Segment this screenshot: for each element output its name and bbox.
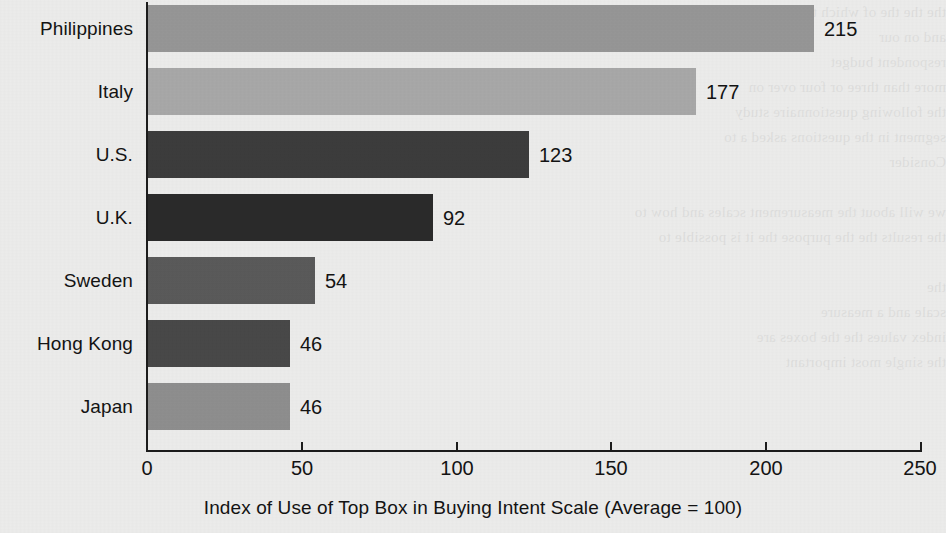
x-axis-tick-200	[765, 442, 767, 452]
bar-italy[interactable]	[148, 68, 696, 115]
bar-uk[interactable]	[148, 194, 433, 241]
category-label-sweden: Sweden	[64, 271, 133, 290]
x-axis-title: Index of Use of Top Box in Buying Intent…	[0, 497, 946, 519]
x-axis-tick-label-100: 100	[440, 458, 473, 478]
bar-japan[interactable]	[148, 383, 290, 430]
x-axis-tick-label-150: 150	[594, 458, 627, 478]
x-axis-line	[146, 450, 922, 452]
category-label-us: U.S.	[96, 145, 133, 164]
x-axis-tick-label-250: 250	[903, 458, 936, 478]
x-axis-tick-50	[301, 442, 303, 452]
bar-value-us: 123	[539, 145, 572, 165]
plot-area: 0 50 100 150 200 250 215 177 123 92 54 4…	[146, 0, 920, 452]
bar-sweden[interactable]	[148, 257, 315, 304]
bar-value-uk: 92	[443, 208, 465, 228]
category-label-philippines: Philippines	[40, 19, 133, 38]
x-axis-tick-label-200: 200	[749, 458, 782, 478]
bar-philippines[interactable]	[148, 5, 814, 52]
bar-value-sweden: 54	[325, 271, 347, 291]
bar-us[interactable]	[148, 131, 529, 178]
x-axis-tick-250	[920, 442, 922, 452]
bar-value-italy: 177	[706, 82, 739, 102]
bar-value-japan: 46	[300, 397, 322, 417]
category-label-uk: U.K.	[96, 208, 133, 227]
category-label-japan: Japan	[81, 397, 133, 416]
bar-value-philippines: 215	[824, 19, 857, 39]
x-axis-tick-150	[610, 442, 612, 452]
category-label-italy: Italy	[98, 82, 133, 101]
bar-hong-kong[interactable]	[148, 320, 290, 367]
horizontal-bar-chart: Philippines Italy U.S. U.K. Sweden Hong …	[0, 0, 946, 533]
x-axis-tick-label-50: 50	[291, 458, 313, 478]
category-label-hong-kong: Hong Kong	[37, 334, 133, 353]
x-axis-tick-label-0: 0	[141, 458, 152, 478]
x-axis-tick-100	[456, 442, 458, 452]
x-axis-tick-0	[146, 442, 148, 452]
bar-value-hong-kong: 46	[300, 334, 322, 354]
